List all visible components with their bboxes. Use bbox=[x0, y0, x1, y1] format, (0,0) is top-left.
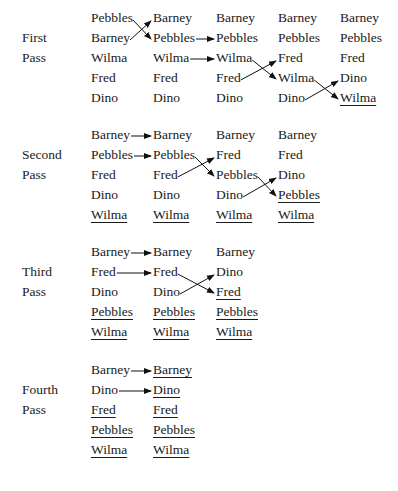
arrow-icon bbox=[178, 274, 214, 293]
arrow-layer bbox=[0, 125, 398, 235]
arrow-icon bbox=[243, 178, 276, 197]
arrow-icon bbox=[305, 81, 338, 100]
arrow-layer bbox=[0, 360, 398, 470]
arrow-icon bbox=[241, 61, 276, 80]
arrow-icon bbox=[178, 158, 214, 177]
arrow-layer bbox=[0, 8, 398, 118]
arrow-layer bbox=[0, 242, 398, 352]
arrow-icon bbox=[130, 21, 151, 40]
